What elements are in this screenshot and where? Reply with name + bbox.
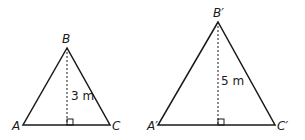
height-label-a-prime-b-prime-c-prime: 5 m xyxy=(221,74,244,88)
triangle-a-prime-b-prime-c-prime: B′ A′ C′ 5 m xyxy=(146,6,288,133)
triangle-a-prime-b-prime-c-prime-outline xyxy=(158,22,275,125)
triangle-abc: B A C 3 m xyxy=(11,32,121,133)
similar-triangles-diagram: B A C 3 m B′ A′ C′ 5 m xyxy=(0,0,305,140)
height-label-abc: 3 m xyxy=(71,89,94,103)
vertex-label-a-prime: A′ xyxy=(146,119,158,133)
vertex-label-b: B xyxy=(62,32,70,46)
vertex-label-b-prime: B′ xyxy=(213,6,224,20)
right-angle-marker-abc xyxy=(67,119,73,125)
right-angle-marker-a-prime-b-prime-c-prime xyxy=(218,119,224,125)
vertex-label-a: A xyxy=(11,119,20,133)
vertex-label-c-prime: C′ xyxy=(277,119,288,133)
vertex-label-c: C xyxy=(112,119,121,133)
